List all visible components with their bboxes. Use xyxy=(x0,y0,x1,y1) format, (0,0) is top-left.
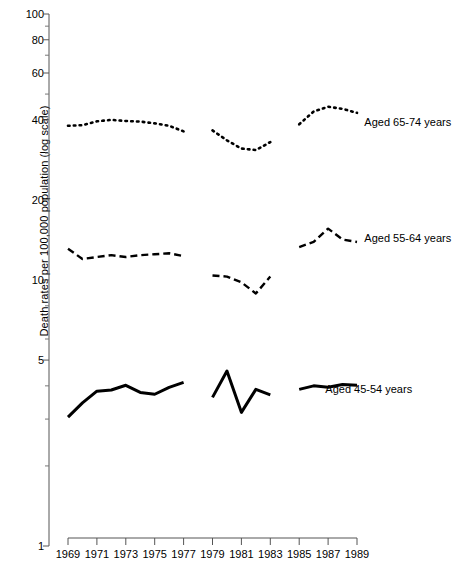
series-label-3: Aged 45-54 years xyxy=(325,383,412,395)
series-line-1 xyxy=(213,130,271,150)
series-line-3 xyxy=(213,371,271,412)
series-line-3 xyxy=(68,382,184,417)
series-label-2: Aged 55-64 years xyxy=(364,232,451,244)
series-group xyxy=(68,107,357,417)
series-line-2 xyxy=(299,229,357,247)
series-line-1 xyxy=(299,107,357,125)
chart-root: Death rates per 100,000 population (log … xyxy=(0,0,466,582)
axes-group xyxy=(43,14,357,546)
series-line-1 xyxy=(68,120,184,132)
series-line-2 xyxy=(213,275,271,293)
series-label-1: Aged 65-74 years xyxy=(364,116,451,128)
plot-area xyxy=(0,0,466,582)
series-line-2 xyxy=(68,249,184,259)
